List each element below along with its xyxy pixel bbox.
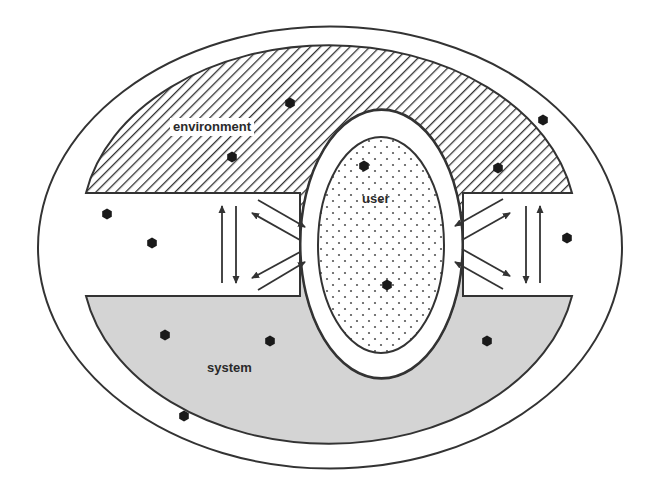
system-label: system xyxy=(207,359,252,377)
user-label: user xyxy=(362,190,389,208)
environment-label: environment xyxy=(170,118,254,136)
user-region xyxy=(318,137,444,353)
diagram-canvas xyxy=(0,0,659,493)
